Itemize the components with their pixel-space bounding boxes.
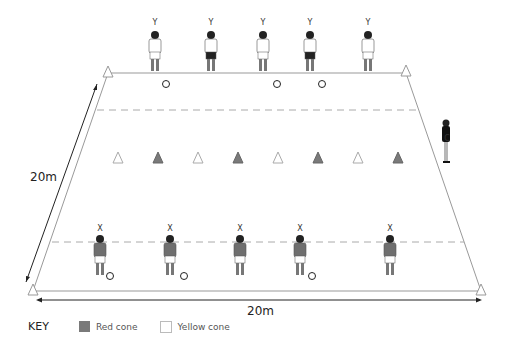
player-label: X — [387, 224, 392, 233]
player-x — [164, 235, 176, 275]
player-label: Y — [261, 18, 266, 27]
player-y — [362, 31, 374, 71]
yellow-cone-icon — [273, 152, 283, 163]
player-x — [234, 235, 246, 275]
yellow-cone-swatch-icon — [160, 321, 172, 333]
yellow-cone-icon — [113, 152, 123, 163]
ball-icon — [274, 81, 281, 88]
player-x — [294, 235, 306, 275]
red-cone-icon — [153, 152, 163, 163]
corner-cone-icon — [28, 284, 38, 295]
player-label: X — [297, 224, 302, 233]
legend: KEY Red cone Yellow cone — [28, 320, 252, 333]
player-label: Y — [209, 18, 214, 27]
yellow-cone-icon — [193, 152, 203, 163]
yellow-cone-icon — [353, 152, 363, 163]
player-label: X — [237, 224, 242, 233]
ball-icon — [181, 273, 188, 280]
side-dimension-label: 20m — [30, 170, 57, 184]
corner-cone-icon — [476, 284, 486, 295]
corner-cone-icon — [103, 66, 113, 77]
player-label: X — [167, 224, 172, 233]
red-cone-icon — [313, 152, 323, 163]
coach-label: C — [444, 134, 450, 143]
ball-icon — [309, 273, 316, 280]
player-y — [205, 31, 217, 71]
legend-yellow-cone: Yellow cone — [178, 322, 230, 332]
bottom-dimension-label: 20m — [247, 304, 274, 318]
player-label: X — [97, 224, 102, 233]
red-cone-swatch-icon — [79, 321, 90, 332]
player-label: Y — [366, 18, 371, 27]
player-y — [149, 31, 161, 71]
player-label: Y — [153, 18, 158, 27]
corner-cone-icon — [401, 65, 411, 76]
red-cone-icon — [233, 152, 243, 163]
ball-icon — [319, 81, 326, 88]
legend-red-cone: Red cone — [96, 322, 138, 332]
legend-title: KEY — [28, 320, 49, 333]
ball-icon — [163, 81, 170, 88]
player-label: Y — [308, 18, 313, 27]
player-y — [304, 31, 316, 71]
player-y — [257, 31, 269, 71]
pitch-diagram — [0, 0, 515, 350]
ball-icon — [107, 273, 114, 280]
red-cone-icon — [393, 152, 403, 163]
player-x — [384, 235, 396, 275]
player-x — [94, 235, 106, 275]
